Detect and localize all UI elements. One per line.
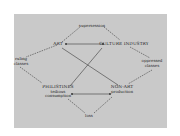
node-top: supersession xyxy=(79,24,105,29)
node-philistines-sub2: consumption xyxy=(42,94,73,99)
node-non-art: NON-ART production xyxy=(111,85,133,94)
node-non-art-sub: production xyxy=(111,90,133,95)
node-philistines: PHILISTINES tedious consumption xyxy=(42,85,73,99)
node-left: ruling classes xyxy=(14,57,28,66)
node-bottom: loss xyxy=(85,114,93,119)
node-right-line2: classes xyxy=(142,64,163,69)
node-culture-industry: CULTURE INDUSTRY xyxy=(99,42,149,47)
node-art: ART xyxy=(53,42,62,47)
node-left-line2: classes xyxy=(14,62,28,67)
node-right: oppressed classes xyxy=(142,59,163,68)
